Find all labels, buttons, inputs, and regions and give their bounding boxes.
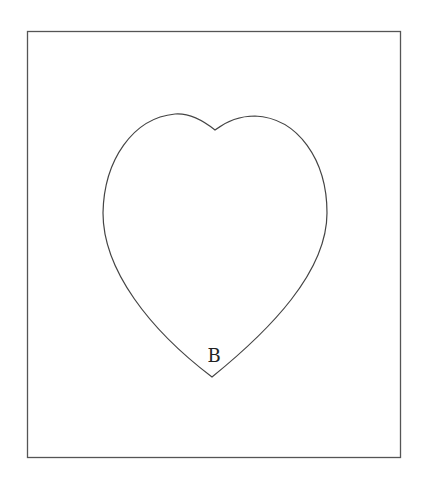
point-label-b: B [207,345,220,366]
frame-border [28,32,401,458]
diagram-canvas: B [0,0,439,481]
heart-outline [103,114,327,377]
